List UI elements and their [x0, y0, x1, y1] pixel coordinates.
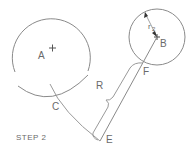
center-mark-a — [49, 45, 56, 52]
label-b: B — [160, 38, 167, 49]
label-r2-subscript: 2 — [152, 26, 156, 32]
line-e-to-b — [100, 37, 157, 141]
label-a: A — [38, 50, 45, 61]
label-r2: r — [148, 22, 151, 31]
label-f: F — [143, 66, 149, 77]
dimension-brace-r — [93, 63, 143, 140]
label-r: R — [96, 80, 103, 91]
step-title: STEP 2 — [16, 133, 46, 142]
construction-diagram: A B C E F R r 2 STEP 2 — [0, 0, 195, 148]
circle-a-upper-arc — [12, 19, 90, 72]
arc-through-c — [50, 84, 100, 141]
label-e: E — [106, 134, 113, 145]
circle-a-lower-arc — [18, 75, 88, 97]
label-c: C — [52, 101, 59, 112]
